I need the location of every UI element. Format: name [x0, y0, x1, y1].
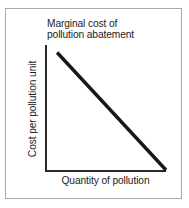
y-axis-label-wrap: Cost per pollution unit	[26, 45, 40, 172]
plot-area: Marginal cost of pollution abatement Qua…	[0, 0, 189, 208]
y-axis-label: Cost per pollution unit	[27, 60, 39, 156]
marginal-cost-line	[57, 53, 166, 171]
figure-root: Marginal cost of pollution abatement Qua…	[0, 0, 189, 208]
x-axis-label: Quantity of pollution	[45, 175, 166, 187]
chart-title: Marginal cost of pollution abatement	[47, 18, 157, 41]
